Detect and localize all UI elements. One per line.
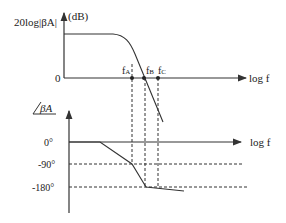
marker-fB-label: fB	[146, 65, 154, 76]
bode-plot-diagram: 20log|βA| (dB) 0 log f fA fB fC βA log	[0, 0, 286, 223]
magnitude-y-unit: (dB)	[68, 10, 89, 23]
phase-plot: βA log f 0° -90° -180°	[32, 102, 271, 213]
phase-curve	[69, 142, 184, 191]
magnitude-origin-label: 0	[55, 72, 61, 84]
magnitude-plot: 20log|βA| (dB) 0 log f fA fB fC	[14, 10, 270, 122]
phase-x-label: log f	[250, 136, 271, 148]
marker-fC-label: fC	[158, 65, 166, 76]
svg-text:βA: βA	[39, 102, 52, 114]
phase-y-label: βA	[33, 102, 56, 114]
magnitude-x-label: log f	[249, 72, 270, 84]
tick-0deg: 0°	[44, 137, 53, 148]
tick-minus180deg: -180°	[32, 182, 54, 193]
marker-fA-label: fA	[122, 65, 130, 76]
tick-minus90deg: -90°	[38, 159, 55, 170]
magnitude-y-label: 20log|βA|	[14, 16, 57, 28]
